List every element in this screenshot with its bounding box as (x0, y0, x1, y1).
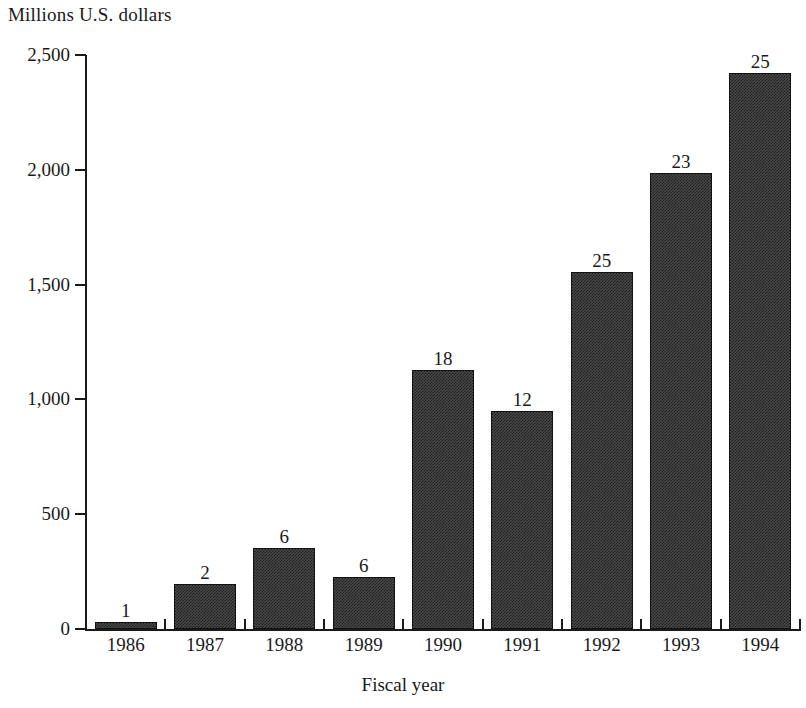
bar-value-label: 23 (671, 152, 690, 171)
bar-chart: Millions U.S. dollars 05001,0001,5002,00… (0, 0, 806, 708)
y-tick-label: 1,000 (2, 388, 70, 410)
x-tick-label: 1986 (86, 634, 165, 656)
x-tick-label: 1992 (562, 634, 641, 656)
bar-value-label: 12 (513, 390, 532, 409)
bar-value-label: 1 (121, 601, 131, 620)
bar-value-label: 25 (592, 251, 611, 270)
bar-1994: 25 (729, 73, 791, 629)
y-axis-ticks: 05001,0001,5002,0002,500 (0, 0, 86, 708)
y-tick-mark (75, 628, 86, 630)
y-tick-label: 500 (2, 503, 70, 525)
y-tick-label: 0 (2, 618, 70, 640)
y-tick-label: 2,500 (2, 44, 70, 66)
x-tick-label: 1993 (641, 634, 720, 656)
bar-1988: 6 (253, 548, 315, 630)
y-tick-mark (75, 398, 86, 400)
x-tick-label: 1994 (721, 634, 800, 656)
y-tick-mark (75, 513, 86, 515)
bar-1986: 1 (95, 622, 157, 629)
bar-value-label: 6 (280, 527, 290, 546)
x-axis-title: Fiscal year (0, 674, 806, 696)
y-tick-mark (75, 284, 86, 286)
bar-1990: 18 (412, 370, 474, 629)
x-tick-label: 1991 (483, 634, 562, 656)
bar-1987: 2 (174, 584, 236, 629)
bar-1993: 23 (650, 173, 712, 629)
bar-1992: 25 (571, 272, 633, 629)
bar-value-label: 6 (359, 556, 369, 575)
bar-1991: 12 (491, 411, 553, 629)
x-axis-line (85, 629, 801, 631)
plot-area: 12661812252325 (86, 55, 800, 629)
y-tick-label: 1,500 (2, 274, 70, 296)
bar-value-label: 25 (751, 52, 770, 71)
bar-value-label: 18 (433, 349, 452, 368)
bar-value-label: 2 (200, 563, 210, 582)
y-tick-mark (75, 169, 86, 171)
x-tick-label: 1990 (403, 634, 482, 656)
x-tick-label: 1989 (324, 634, 403, 656)
y-tick-mark (75, 54, 86, 56)
y-tick-label: 2,000 (2, 159, 70, 181)
x-tick-label: 1987 (165, 634, 244, 656)
x-tick-label: 1988 (245, 634, 324, 656)
bar-1989: 6 (333, 577, 395, 629)
